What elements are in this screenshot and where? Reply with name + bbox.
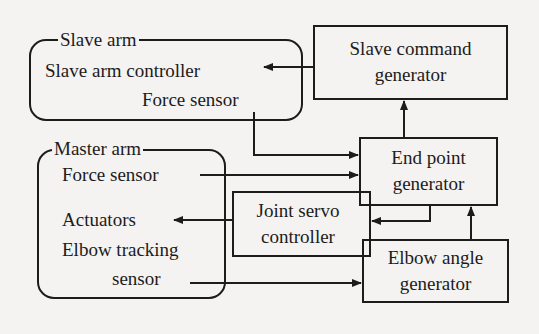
joint-servo-controller-line1: Joint servo [233, 198, 363, 224]
end-point-generator-line1: End point [360, 145, 497, 171]
elbow-angle-generator-line2: generator [363, 271, 508, 297]
elbow-tracking-label: Elbow tracking [62, 240, 179, 260]
elbow-sensor-label: sensor [112, 269, 161, 289]
slave-force-sensor-label: Force sensor [142, 90, 239, 110]
actuators-label: Actuators [62, 210, 136, 230]
arrow-endpoint-to-jointservo [372, 205, 430, 221]
master-force-sensor-label: Force sensor [62, 165, 159, 185]
end-point-generator: End point generator [360, 145, 497, 197]
joint-servo-controller: Joint servo controller [233, 198, 363, 250]
joint-servo-controller-line2: controller [233, 224, 363, 250]
slave-command-generator-line1: Slave command [314, 36, 507, 62]
slave-arm-controller-label: Slave arm controller [45, 61, 200, 81]
elbow-angle-generator-line1: Elbow angle [363, 245, 508, 271]
slave-arm-title: Slave arm [58, 30, 139, 50]
master-arm-title: Master arm [52, 139, 143, 159]
slave-command-generator-line2: generator [314, 62, 507, 88]
slave-command-generator: Slave command generator [314, 36, 507, 88]
arrow-slave-force-to-endpoint [254, 112, 358, 155]
elbow-angle-generator: Elbow angle generator [363, 245, 508, 297]
end-point-generator-line2: generator [360, 171, 497, 197]
